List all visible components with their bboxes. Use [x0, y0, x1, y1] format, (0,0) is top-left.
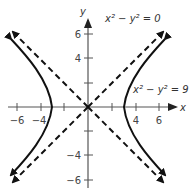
x-tick-label: −4: [32, 115, 47, 126]
y-tick-label: 4: [75, 53, 81, 64]
y-tick-label: 6: [75, 29, 81, 40]
x-tick-label: 6: [156, 115, 162, 126]
y-tick-label: −6: [66, 175, 81, 186]
hyperbola-diagram: y x −6 −4 4 6 6 4 −4 −6 x² − y² = 0 x² −…: [0, 0, 190, 190]
x-tick-label: 4: [133, 115, 139, 126]
x-tick-label: −6: [10, 115, 25, 126]
asymptote-equation-label: x² − y² = 0: [104, 13, 161, 24]
y-tick-label: −4: [66, 150, 81, 161]
x-axis-label: x: [179, 102, 186, 113]
y-axis-label: y: [79, 6, 87, 17]
hyperbola-equation-label: x² − y² = 9: [132, 84, 189, 95]
